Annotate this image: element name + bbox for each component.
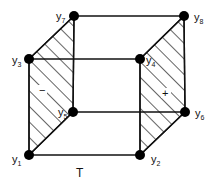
vertex-y5: [68, 107, 78, 117]
label-y3: y3: [12, 54, 22, 68]
axis-label-t: T: [76, 166, 84, 180]
vertex-y8: [179, 11, 189, 21]
minus-sign: −: [39, 84, 45, 96]
cube-diagram: y1 y2 y3 y4 y5 y6 y7 y8 − + T: [0, 0, 215, 187]
vertex-y4: [135, 54, 145, 64]
vertex-y7: [69, 11, 79, 21]
vertex-y6: [180, 107, 190, 117]
label-y7: y7: [56, 10, 66, 24]
label-y2: y2: [151, 153, 161, 167]
label-y6: y6: [195, 107, 205, 121]
vertex-y1: [24, 150, 34, 160]
edge-y6-y8: [184, 16, 185, 112]
vertex-y3: [24, 54, 34, 64]
label-y1: y1: [12, 153, 22, 167]
edge-y5-y7: [73, 16, 74, 112]
plus-sign: +: [162, 87, 168, 99]
vertex-y2: [135, 150, 145, 160]
label-y8: y8: [194, 11, 204, 25]
